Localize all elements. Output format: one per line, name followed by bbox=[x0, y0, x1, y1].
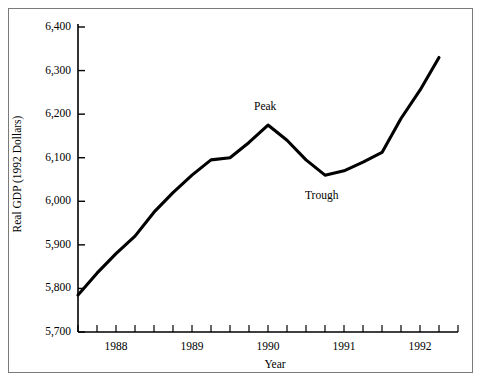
x-tick-label: 1992 bbox=[380, 341, 460, 353]
x-axis-ticks bbox=[78, 325, 458, 332]
y-tick-label: 5,700 bbox=[0, 326, 71, 338]
y-tick-label: 6,300 bbox=[0, 65, 71, 77]
chart-plot-area bbox=[0, 0, 481, 384]
x-tick-label: 1990 bbox=[228, 341, 308, 353]
annotation-peak: Peak bbox=[254, 100, 276, 112]
x-axis-title: Year bbox=[215, 358, 335, 370]
x-tick-label: 1991 bbox=[304, 341, 384, 353]
annotation-trough: Trough bbox=[305, 189, 338, 201]
y-tick-label: 6,400 bbox=[0, 21, 71, 33]
y-tick-label: 5,800 bbox=[0, 282, 71, 294]
figure: 5,7005,8005,9006,0006,1006,2006,3006,400… bbox=[0, 0, 481, 384]
axes bbox=[78, 24, 458, 332]
x-tick-label: 1988 bbox=[76, 341, 156, 353]
x-tick-label: 1989 bbox=[152, 341, 232, 353]
gdp-series-line bbox=[78, 58, 439, 295]
y-axis-title: Real GDP (1992 Dollars) bbox=[11, 94, 23, 254]
